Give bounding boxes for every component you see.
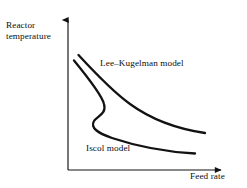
figure-container: Reactor temperature Feed rate Lee–Kugelm…	[0, 0, 247, 188]
curve-label-iscol: Iscol model	[86, 143, 130, 154]
x-axis-label: Feed rate	[190, 171, 225, 182]
y-axis-label: Reactor temperature	[6, 20, 51, 41]
curve-label-lee-kugelman: Lee–Kugelman model	[100, 58, 184, 69]
